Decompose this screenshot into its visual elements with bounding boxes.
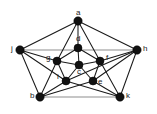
node-label-b: b xyxy=(30,92,34,100)
graph-edge xyxy=(120,50,137,97)
graph-edge xyxy=(20,21,78,50)
graph-node-g xyxy=(53,57,61,65)
graph-diagram: ajhbkdgfiec xyxy=(0,0,157,114)
node-label-k: k xyxy=(126,92,130,100)
node-label-f: f xyxy=(106,54,108,62)
graph-node-h xyxy=(133,46,141,54)
graph-node-j xyxy=(16,46,24,54)
graph-node-f xyxy=(96,57,104,65)
node-label-g: g xyxy=(46,54,50,62)
graph-edge xyxy=(20,50,57,61)
edges-layer xyxy=(20,21,137,97)
graph-node-i xyxy=(62,77,70,85)
graph-node-a xyxy=(74,17,82,25)
node-label-c: c xyxy=(77,68,81,76)
graph-node-k xyxy=(116,93,124,101)
node-label-i: i xyxy=(57,73,59,81)
node-label-a: a xyxy=(76,9,80,17)
graph-canvas xyxy=(0,0,157,114)
graph-node-e xyxy=(89,77,97,85)
node-label-d: d xyxy=(76,35,80,43)
graph-edge xyxy=(78,21,137,50)
node-label-e: e xyxy=(98,78,102,86)
graph-node-b xyxy=(36,93,44,101)
graph-node-d xyxy=(74,44,82,52)
node-label-h: h xyxy=(143,45,147,53)
node-label-j: j xyxy=(11,45,13,53)
